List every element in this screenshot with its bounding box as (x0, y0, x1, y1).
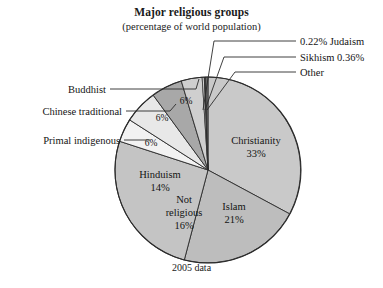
callout-label-buddhist: Buddhist (68, 84, 106, 95)
callout-label-primal-indigenous: Primal indigenous (43, 135, 120, 146)
chart-caption: 2005 data (0, 262, 383, 273)
callout-label-sikhism: Sikhism 0.36% (300, 52, 364, 63)
slice-label-hinduism-value: 14% (150, 182, 170, 193)
callout-label-other: Other (300, 67, 324, 78)
slice-label-christianity-value: 33% (246, 148, 266, 159)
slice-label-buddhist-value: 6% (180, 96, 193, 106)
slice-label-not-religious-line1: Not (176, 194, 192, 205)
slice-label-hinduism-name: Hinduism (139, 169, 180, 180)
slice-label-islam-name: Islam (222, 201, 245, 212)
slice-label-christianity-name: Christianity (231, 135, 281, 146)
callout-label-chinese-traditional: Chinese traditional (42, 106, 122, 117)
chart-page: Major religious groups (percentage of wo… (0, 0, 383, 288)
pie-chart: 0.22% Judaism Sikhism 0.36% Other Buddhi… (0, 0, 383, 288)
slice-label-not-religious-value: 16% (174, 220, 194, 231)
callout-label-judaism: 0.22% Judaism (300, 36, 364, 47)
slice-label-islam-value: 21% (224, 214, 244, 225)
slice-label-primal-indigenous-value: 6% (145, 138, 158, 148)
slice-label-chinese-traditional-value: 6% (156, 113, 169, 123)
slice-label-not-religious-line2: religious (166, 207, 203, 218)
